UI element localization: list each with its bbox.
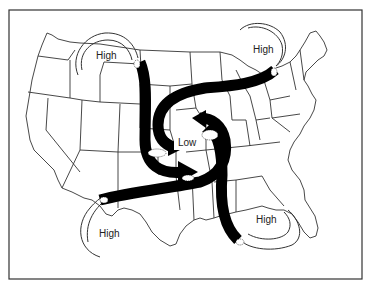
label-high-southeast: High — [256, 214, 277, 225]
us-weather-map: High High High High Low — [0, 0, 367, 290]
label-low-center: Low — [178, 137, 197, 148]
label-high-northeast: High — [253, 44, 274, 55]
map-figure: High High High High Low — [0, 0, 367, 290]
label-high-southwest: High — [99, 228, 120, 239]
label-high-northwest: High — [96, 50, 117, 61]
